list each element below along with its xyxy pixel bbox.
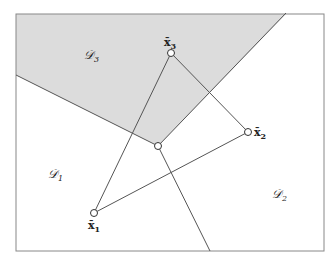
point-x2 <box>245 129 252 136</box>
point-x1 <box>91 210 98 217</box>
region-label-d1: 𝒟1 <box>48 167 63 183</box>
point-label-x1: x̄1 <box>88 219 100 234</box>
point-label-x2: x̄2 <box>254 126 266 141</box>
boundary-d1-d2 <box>158 146 210 251</box>
center-vertex-point <box>155 143 162 150</box>
edge-x2-x1 <box>94 132 248 213</box>
voronoi-diagram: 𝒟1 𝒟2 𝒟3 x̄1 x̄2 x̄3 <box>0 0 333 266</box>
region-label-d2: 𝒟2 <box>272 187 287 203</box>
region-d3-shaded <box>16 14 286 146</box>
